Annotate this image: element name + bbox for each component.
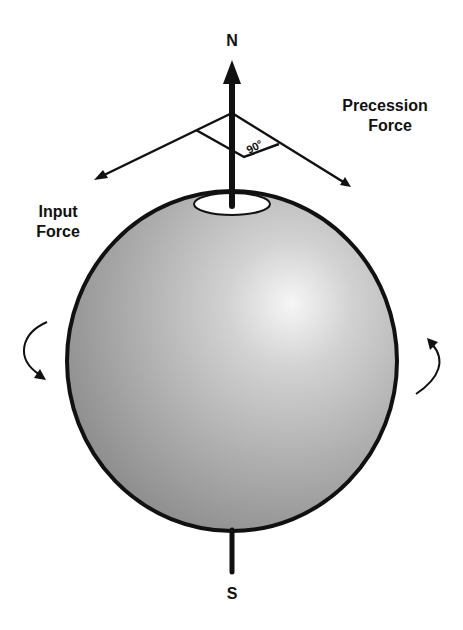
input-force-label-line1: Input xyxy=(38,203,78,220)
curved-arrow-down-icon xyxy=(24,322,47,380)
north-axis-arrow xyxy=(223,60,241,206)
gyroscope-diagram: 90° N S Precession Force Input Force xyxy=(0,0,463,630)
curved-arrow-up-icon xyxy=(416,338,439,394)
angle-label: 90° xyxy=(244,137,264,155)
north-label: N xyxy=(226,32,238,49)
input-force-vector xyxy=(94,113,232,180)
input-force-label-line2: Force xyxy=(36,223,80,240)
precession-force-label-line1: Precession xyxy=(342,97,427,114)
sphere xyxy=(67,191,397,531)
precession-force-label-line2: Force xyxy=(368,117,412,134)
south-label: S xyxy=(227,585,238,602)
